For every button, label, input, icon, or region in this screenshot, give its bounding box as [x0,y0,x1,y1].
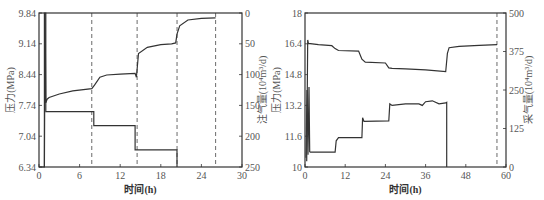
y-right-tick-label: 125 [509,123,524,134]
x-tick-label: 24 [380,170,390,181]
y-left-tick-label: 7.74 [19,100,37,111]
y-left-tick-label: 9.84 [19,8,37,19]
y-left-tick-label: 7.04 [19,131,37,142]
x-tick-label: 48 [461,170,471,181]
x-axis-label: 时间(h) [389,183,421,196]
y-right-axis-label: 采气量(10⁴m³/d) [522,56,535,125]
y-right-tick-label: 50 [245,38,255,49]
y-left-tick-label: 6.34 [19,162,37,173]
y-left-axis-label: 压力(MPa) [270,67,283,113]
plot-frame [305,13,506,167]
y-left-tick-label: 9.14 [19,38,37,49]
y-right-tick-label: 250 [245,162,260,173]
x-tick-label: 6 [77,170,82,181]
y-right-tick-label: 0 [245,8,250,19]
y-left-tick-label: 13.2 [285,100,303,111]
x-tick-label: 0 [303,170,308,181]
y-right-axis-label: 注气量(10⁴m³/d) [256,56,269,125]
y-left-tick-label: 16.4 [285,38,303,49]
y-right-tick-label: 0 [509,162,514,173]
x-tick-label: 24 [196,170,206,181]
x-tick-label: 12 [115,170,125,181]
y-right-tick-label: 500 [509,8,524,19]
y-right-tick-label: 200 [245,131,260,142]
pressure-curve [44,13,215,167]
gas-rate-curve [39,13,177,167]
right-chart: 012243648601011.613.214.816.418012525037… [270,8,535,197]
y-left-axis-label: 压力(MPa) [4,67,17,113]
x-tick-label: 0 [37,170,42,181]
left-chart: 06121824306.347.047.748.449.149.84050100… [4,8,269,197]
y-right-tick-label: 250 [509,85,524,96]
y-left-tick-label: 14.8 [285,69,303,80]
plot-frame [39,13,242,167]
x-tick-label: 36 [421,170,431,181]
charts-figure: 06121824306.347.047.748.449.149.84050100… [0,0,544,200]
y-left-tick-label: 11.6 [285,131,302,142]
gas-rate-curve [306,87,447,167]
pressure-curve [307,40,497,161]
y-left-tick-label: 18 [292,8,302,19]
x-tick-label: 18 [156,170,166,181]
y-left-tick-label: 8.44 [19,69,37,80]
x-tick-label: 12 [340,170,350,181]
y-right-tick-label: 375 [509,46,524,57]
x-axis-label: 时间(h) [124,183,156,196]
y-left-tick-label: 10 [292,162,302,173]
